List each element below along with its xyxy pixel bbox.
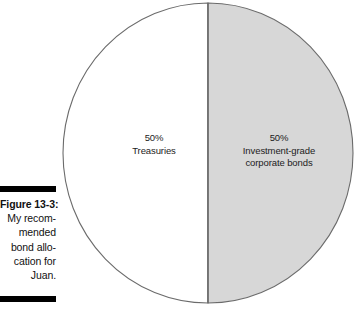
pie-label-treasuries-name: Treasuries [106, 145, 202, 158]
figure-caption-line-3: bond allo- [0, 240, 56, 254]
figure-caption-line-1: My recom- [0, 211, 56, 225]
figure-caption-text: Figure 13-3: My recom- mended bond allo-… [0, 197, 56, 282]
figure-caption-line-2: mended [0, 225, 56, 239]
caption-rule-bottom [0, 296, 56, 302]
pie-label-corporate-bonds-name-line-1: Investment-grade [214, 145, 344, 158]
pie-label-treasuries: 50% Treasuries [106, 132, 202, 157]
figure-caption-block: Figure 13-3: My recom- mended bond allo-… [0, 186, 56, 282]
caption-rule-top [0, 186, 56, 192]
pie-label-treasuries-percent: 50% [106, 132, 202, 145]
pie-label-corporate-bonds-percent: 50% [214, 132, 344, 145]
figure-caption-line-5: Juan. [0, 268, 56, 282]
figure-caption-title: Figure 13-3: [0, 197, 56, 211]
pie-label-corporate-bonds: 50% Investment-grade corporate bonds [214, 132, 344, 170]
pie-label-corporate-bonds-name-line-2: corporate bonds [214, 157, 344, 170]
figure-caption-line-4: cation for [0, 254, 56, 268]
